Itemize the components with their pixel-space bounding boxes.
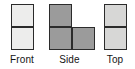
view-front: Front [0, 0, 44, 69]
top-view-label: Top [95, 54, 135, 65]
front-shape-grid [11, 4, 34, 50]
orthographic-views-figure: Front Side Top [0, 0, 135, 69]
view-side: Side [44, 0, 95, 69]
view-top: Top [95, 0, 135, 69]
front-cell [11, 27, 34, 50]
side-cell [49, 4, 72, 27]
top-cell [104, 27, 127, 50]
side-cell [72, 27, 95, 50]
front-view-label: Front [0, 54, 44, 65]
side-cell [49, 27, 72, 50]
front-cell [11, 4, 34, 27]
top-cell [104, 4, 127, 27]
side-view-label: Side [44, 54, 95, 65]
top-shape-grid [104, 4, 127, 50]
side-shape-grid [49, 4, 95, 50]
